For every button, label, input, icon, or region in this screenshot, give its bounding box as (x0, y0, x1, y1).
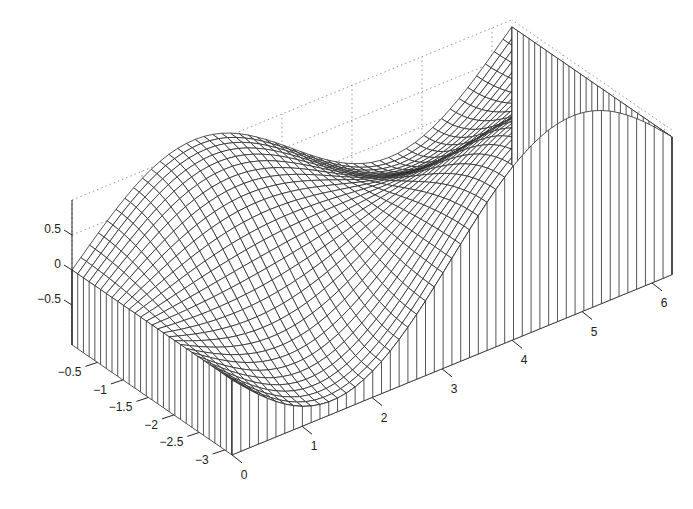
x-tick-label: 0 (241, 468, 248, 482)
y-tick-label: −2.5 (160, 435, 184, 449)
y-tick (136, 397, 148, 401)
y-tick (213, 450, 225, 454)
x-tick (442, 369, 452, 377)
x-tick (302, 426, 312, 434)
x-tick-label: 3 (451, 382, 458, 396)
x-tick (232, 455, 242, 463)
z-tick-label: 0 (54, 257, 61, 271)
x-tick-label: 6 (661, 296, 668, 310)
x-tick-label: 4 (521, 353, 528, 367)
z-tick-label: 0.5 (44, 222, 61, 236)
x-tick (582, 312, 592, 320)
mesh-surface (72, 27, 672, 455)
z-tick (64, 230, 72, 235)
y-tick (111, 380, 123, 384)
y-tick (187, 432, 199, 436)
z-tick (64, 300, 72, 305)
y-tick (85, 362, 97, 366)
z-tick (64, 265, 72, 270)
y-tick-label: −1 (93, 383, 107, 397)
z-tick-label: −0.5 (37, 292, 61, 306)
y-tick-label: −2 (144, 418, 158, 432)
x-tick (652, 283, 662, 291)
x-tick-label: 5 (591, 325, 598, 339)
x-tick-label: 2 (381, 411, 388, 425)
y-tick-label: −3 (195, 453, 209, 467)
x-tick (512, 340, 522, 348)
y-tick-label: −0.5 (58, 365, 82, 379)
x-tick (372, 398, 382, 406)
surface-plot: −0.500.5−3−2.5−2−1.5−1−0.50123456 (0, 0, 693, 509)
x-tick-label: 1 (311, 439, 318, 453)
y-tick-label: −1.5 (109, 400, 133, 414)
y-tick (162, 415, 174, 419)
